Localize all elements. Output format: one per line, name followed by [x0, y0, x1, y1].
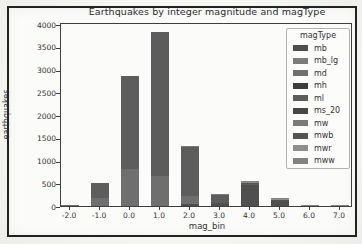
bar	[91, 183, 109, 206]
x-tick-label: 4.0	[234, 211, 264, 220]
x-tick-label: 6.0	[294, 211, 324, 220]
x-tick-mark	[249, 207, 250, 210]
bar-segment-md	[181, 196, 199, 204]
bar	[241, 181, 259, 206]
chart-title: Earthquakes by integer magnitude and mag…	[62, 6, 352, 17]
legend-row: mw	[287, 117, 349, 130]
legend-title: magType	[287, 31, 349, 42]
legend-row: mb_lg	[287, 55, 349, 68]
y-tick-label: 1000	[18, 157, 56, 166]
y-tick-label: 4000	[18, 21, 56, 30]
x-tick-label: 1.0	[144, 211, 174, 220]
x-tick-mark	[309, 207, 310, 210]
bar-segment-mww	[301, 205, 319, 206]
x-axis-label: mag_bin	[62, 221, 352, 231]
legend-swatch-icon	[293, 120, 308, 126]
legend-label: mww	[314, 156, 335, 165]
y-tick-label: 1500	[18, 134, 56, 143]
legend-row: md	[287, 67, 349, 80]
legend-label: ms_20	[314, 106, 340, 115]
legend-swatch-icon	[293, 108, 308, 114]
y-tick-label: 0	[18, 203, 56, 212]
bar-segment-mb	[271, 201, 289, 206]
bar-segment-md	[121, 169, 139, 206]
bar-segment-ml	[121, 76, 139, 169]
x-tick-label: -2.0	[54, 211, 84, 220]
bar-segment-md	[151, 176, 169, 206]
bar-segment-mb	[211, 203, 229, 206]
y-axis-label: earthquakes	[2, 75, 11, 155]
legend-row: ml	[287, 92, 349, 105]
x-tick-mark	[159, 207, 160, 210]
legend-label: mb_lg	[314, 56, 338, 65]
bar	[61, 205, 79, 206]
bar-segment-mb	[241, 185, 259, 206]
legend-label: md	[314, 69, 327, 78]
x-tick-label: 0.0	[114, 211, 144, 220]
bar-segment-mwr	[241, 182, 259, 183]
bar-segment-ml	[241, 184, 259, 185]
x-tick-mark	[69, 207, 70, 210]
legend-swatch-icon	[293, 70, 308, 76]
bar-segment-mw	[181, 146, 199, 147]
bar-segment-ml	[91, 183, 109, 198]
legend-swatch-icon	[293, 95, 308, 101]
legend-label: mb	[314, 44, 327, 53]
legend-label: ml	[314, 94, 324, 103]
bar-segment-md	[91, 198, 109, 206]
x-tick-mark	[219, 207, 220, 210]
x-tick-label: 5.0	[264, 211, 294, 220]
x-tick-mark	[189, 207, 190, 210]
bar-segment-ml	[181, 147, 199, 197]
y-tick-mark	[56, 207, 60, 208]
y-tick-label: 3500	[18, 43, 56, 52]
legend-rows: mbmb_lgmdmhmlms_20mwmwbmwrmww	[287, 42, 349, 167]
legend-row: mww	[287, 155, 349, 168]
bar	[271, 198, 289, 206]
x-tick-label: -1.0	[84, 211, 114, 220]
bar-segment-mww	[271, 198, 289, 199]
legend-label: mwr	[314, 144, 332, 153]
x-tick-mark	[279, 207, 280, 210]
y-tick-label: 500	[18, 180, 56, 189]
bar-segment-mw	[211, 194, 229, 195]
legend-label: mwb	[314, 131, 333, 140]
legend-row: ms_20	[287, 105, 349, 118]
legend-swatch-icon	[293, 145, 308, 151]
y-tick-label: 2500	[18, 89, 56, 98]
bar-segment-ml	[151, 32, 169, 176]
bar-segment-mww	[331, 205, 349, 206]
legend-row: mh	[287, 80, 349, 93]
bar-segment-mb	[181, 204, 199, 206]
x-tick-mark	[339, 207, 340, 210]
y-tick-label: 2000	[18, 112, 56, 121]
legend-swatch-icon	[293, 158, 308, 164]
legend-label: mw	[314, 119, 328, 128]
bar	[211, 194, 229, 206]
figure-border: Earthquakes by integer magnitude and mag…	[7, 6, 357, 237]
legend-label: mh	[314, 81, 327, 90]
figure-photo: Earthquakes by integer magnitude and mag…	[0, 0, 362, 244]
x-tick-mark	[99, 207, 100, 210]
x-tick-label: 2.0	[174, 211, 204, 220]
figure-canvas: Earthquakes by integer magnitude and mag…	[0, 0, 362, 244]
bar	[151, 32, 169, 206]
legend-swatch-icon	[293, 45, 308, 51]
legend-row: mb	[287, 42, 349, 55]
legend-swatch-icon	[293, 58, 308, 64]
x-tick-label: 3.0	[204, 211, 234, 220]
x-tick-mark	[129, 207, 130, 210]
legend-swatch-icon	[293, 83, 308, 89]
bar-segment-ml	[211, 194, 229, 203]
y-tick-label: 3000	[18, 66, 56, 75]
bar-segment-mww	[241, 181, 259, 182]
legend-row: mwb	[287, 130, 349, 143]
bar	[121, 76, 139, 206]
legend: magType mbmb_lgmdmhmlms_20mwmwbmwrmww	[286, 28, 350, 169]
legend-row: mwr	[287, 142, 349, 155]
bar-segment-md	[61, 205, 79, 206]
x-tick-label: 7.0	[324, 211, 354, 220]
legend-swatch-icon	[293, 133, 308, 139]
bar	[181, 146, 199, 206]
